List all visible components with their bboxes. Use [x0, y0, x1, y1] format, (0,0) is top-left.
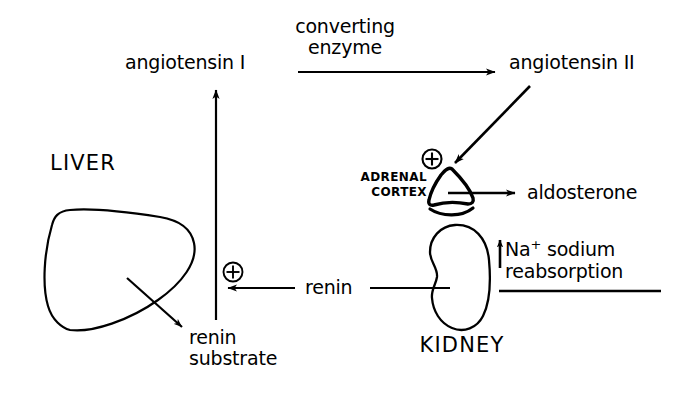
renin-angiotensin-aldosterone-diagram: angiotensin I convertingenzyme angiotens…: [0, 0, 682, 393]
label-angiotensin-1: angiotensin I: [125, 52, 245, 73]
label-angiotensin-2: angiotensin II: [509, 52, 635, 73]
arrow-liver-to-renin-substrate: [127, 278, 182, 327]
arrow-angiotensin2-to-adrenal-cortex: [455, 86, 530, 163]
label-renin: renin: [305, 277, 352, 298]
label-converting-enzyme: convertingenzyme: [295, 16, 395, 59]
liver-outline: [45, 209, 195, 330]
kidney-bean-outline: [430, 225, 490, 330]
label-kidney: KIDNEY: [419, 334, 504, 358]
sodium-symbol: Na+: [505, 238, 541, 260]
plus-circle-adrenal: [423, 150, 442, 169]
label-adrenal-cortex: ADRENALCORTEX: [361, 170, 427, 201]
label-renin-substrate: reninsubstrate: [189, 327, 277, 370]
plus-circle-renin: [224, 263, 243, 282]
label-sodium-reabsorption: Na+ sodiumreabsorption: [505, 238, 623, 282]
label-liver: LIVER: [50, 152, 116, 176]
label-aldosterone: aldosterone: [527, 182, 637, 203]
adrenal-cap-outline: [429, 168, 474, 215]
